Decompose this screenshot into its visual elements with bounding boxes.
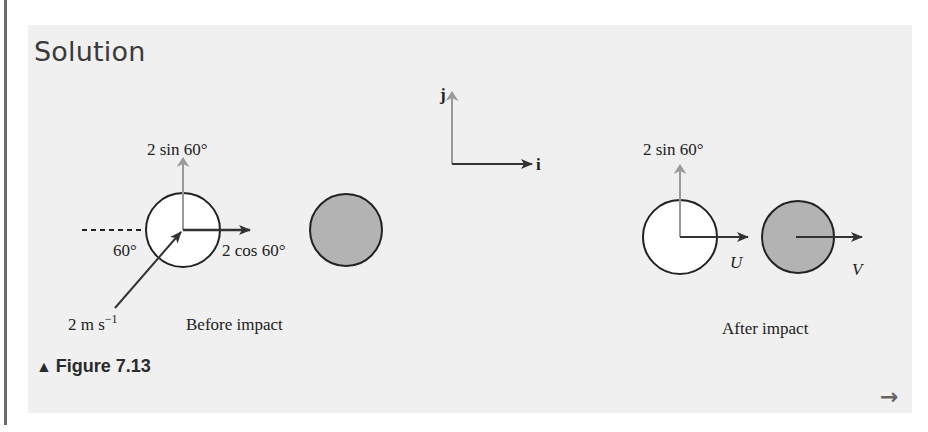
vertical-component-label: 2 sin 60° [147,140,208,159]
shaded-ball [310,194,382,266]
vertical-component-label-after: 2 sin 60° [643,140,704,159]
before-impact-diagram: 2 sin 60° 60° 2 cos 60° 2 m s−1 Before i… [68,140,382,334]
horizontal-component-label: 2 cos 60° [222,241,285,260]
after-impact-label: After impact [722,319,809,338]
next-arrow-icon[interactable]: → [880,384,898,409]
v-label: V [852,260,865,279]
svg-text:2 m s−1: 2 m s−1 [68,312,118,334]
u-label: U [730,253,744,272]
i-label: i [536,155,541,174]
j-label: j [439,85,446,104]
after-impact-diagram: 2 sin 60° U V After impact [643,140,865,338]
angle-label: 60° [113,241,137,260]
unit-axes: j i [439,85,541,174]
figure-caption: ▲Figure 7.13 [36,356,151,377]
triangle-icon: ▲ [36,358,52,375]
before-impact-label: Before impact [186,315,283,334]
speed-label: 2 m s [68,315,105,334]
